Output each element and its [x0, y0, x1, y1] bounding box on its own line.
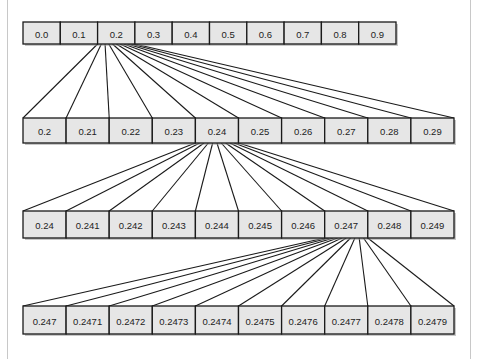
- cell-0-2479: 0.2479: [411, 306, 454, 334]
- cell-0-242: 0.242: [109, 211, 152, 238]
- cell-label: 0.28: [380, 126, 399, 137]
- cell-label: 0.24: [35, 220, 54, 231]
- cell-0-2476: 0.2476: [282, 306, 325, 334]
- cell-label: 0.2474: [202, 316, 231, 327]
- cell-label: 0.2476: [289, 316, 318, 327]
- cell-label: 0.2475: [246, 316, 275, 327]
- cell-label: 0.5: [222, 29, 235, 40]
- connector-line: [217, 143, 239, 211]
- cell-label: 0.2473: [159, 316, 188, 327]
- cell-0-5: 0.5: [210, 22, 247, 44]
- cell-0-244: 0.244: [195, 211, 238, 238]
- cell-label: 0.23: [165, 126, 184, 137]
- row-level-3: 0.240.2410.2420.2430.2440.2450.2460.2470…: [23, 211, 456, 240]
- cell-0-8: 0.8: [321, 22, 358, 44]
- fan-connector-level-1: [23, 44, 454, 118]
- cell-0-24: 0.24: [23, 211, 66, 238]
- cell-0-241: 0.241: [66, 211, 109, 238]
- fan-connector-level-2: [23, 143, 454, 211]
- cell-0-247: 0.247: [325, 211, 368, 238]
- cell-0-21: 0.21: [66, 118, 109, 143]
- connector-line: [195, 238, 342, 306]
- cell-0-28: 0.28: [368, 118, 411, 143]
- cell-label: 0.29: [423, 126, 442, 137]
- cell-0-0: 0.0: [23, 22, 60, 44]
- cell-label: 0.249: [421, 220, 445, 231]
- cell-label: 0.2: [110, 29, 123, 40]
- connector-line: [131, 44, 411, 118]
- connector-line: [127, 44, 367, 118]
- connector-line: [152, 238, 337, 306]
- connector-line: [234, 143, 411, 211]
- cell-0-249: 0.249: [411, 211, 454, 238]
- cell-0-23: 0.23: [152, 118, 195, 143]
- cell-label: 0.242: [119, 220, 143, 231]
- cell-label: 0.8: [333, 29, 346, 40]
- connector-line: [109, 143, 204, 211]
- cell-0-9: 0.9: [359, 22, 396, 44]
- cell-label: 0.21: [78, 126, 97, 137]
- cell-label: 0.2477: [332, 316, 361, 327]
- cell-label: 0.245: [248, 220, 272, 231]
- cell-label: 0.241: [76, 220, 100, 231]
- connector-line: [195, 143, 212, 211]
- cell-label: 0.243: [162, 220, 186, 231]
- cell-label: 0.246: [291, 220, 315, 231]
- cell-0-2473: 0.2473: [152, 306, 195, 334]
- cell-label: 0.1: [72, 29, 85, 40]
- cell-label: 0.247: [334, 220, 358, 231]
- connector-line: [116, 44, 238, 118]
- subdivision-diagram: 0.00.10.20.30.40.50.60.70.80.90.20.210.2…: [0, 0, 478, 359]
- cell-0-25: 0.25: [239, 118, 282, 143]
- cell-0-246: 0.246: [282, 211, 325, 238]
- connector-line: [23, 238, 325, 306]
- connector-line: [66, 44, 101, 118]
- cell-label: 0.9: [371, 29, 384, 40]
- cell-label: 0.2471: [73, 316, 102, 327]
- cell-label: 0.7: [296, 29, 309, 40]
- fan-connector-level-3: [23, 238, 454, 306]
- cell-label: 0.25: [251, 126, 270, 137]
- cell-0-6: 0.6: [247, 22, 284, 44]
- cell-0-7: 0.7: [284, 22, 321, 44]
- cell-0-2475: 0.2475: [239, 306, 282, 334]
- connector-line: [109, 44, 153, 118]
- cell-0-243: 0.243: [152, 211, 195, 238]
- cell-0-29: 0.29: [411, 118, 454, 143]
- cell-0-2: 0.2: [98, 22, 135, 44]
- cell-label: 0.3: [147, 29, 160, 40]
- cell-0-2: 0.2: [23, 118, 66, 143]
- cell-label: 0.4: [184, 29, 197, 40]
- cell-0-247: 0.247: [23, 306, 66, 334]
- cell-label: 0.2: [38, 126, 51, 137]
- cell-0-2472: 0.2472: [109, 306, 152, 334]
- cell-label: 0.0: [35, 29, 48, 40]
- cell-0-24: 0.24: [195, 118, 238, 143]
- cell-0-3: 0.3: [135, 22, 172, 44]
- cell-0-27: 0.27: [325, 118, 368, 143]
- cell-0-245: 0.245: [239, 211, 282, 238]
- connector-line: [66, 238, 329, 306]
- cell-0-1: 0.1: [60, 22, 97, 44]
- cell-label: 0.2478: [375, 316, 404, 327]
- cell-0-2471: 0.2471: [66, 306, 109, 334]
- connector-line: [359, 238, 368, 306]
- cell-label: 0.247: [33, 316, 57, 327]
- connector-line: [368, 238, 454, 306]
- cell-0-26: 0.26: [282, 118, 325, 143]
- connector-line: [109, 238, 333, 306]
- cell-label: 0.6: [259, 29, 272, 40]
- cell-label: 0.26: [294, 126, 313, 137]
- cell-label: 0.24: [208, 126, 227, 137]
- cell-0-2478: 0.2478: [368, 306, 411, 334]
- row-level-4: 0.2470.24710.24720.24730.24740.24750.247…: [23, 306, 456, 336]
- connector-line: [120, 44, 282, 118]
- cell-label: 0.27: [337, 126, 356, 137]
- cell-0-248: 0.248: [368, 211, 411, 238]
- cell-label: 0.244: [205, 220, 229, 231]
- cell-0-4: 0.4: [172, 22, 209, 44]
- row-level-2: 0.20.210.220.230.240.250.260.270.280.29: [23, 118, 456, 145]
- cell-0-22: 0.22: [109, 118, 152, 143]
- cell-0-2474: 0.2474: [195, 306, 238, 334]
- connector-line: [105, 44, 109, 118]
